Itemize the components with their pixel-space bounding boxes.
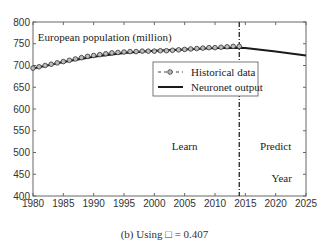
y-tick-label: 450 [13, 169, 30, 180]
legend-historical-marker [168, 70, 173, 75]
historical-data-marker [49, 62, 54, 67]
historical-data-marker [219, 45, 224, 50]
x-tick-label: 2025 [295, 198, 318, 209]
legend-historical-label: Historical data [191, 66, 256, 78]
x-tick-label: 1985 [52, 198, 75, 209]
x-tick-label: 2020 [265, 198, 288, 209]
y-tick-label: 600 [13, 104, 30, 115]
historical-data-marker [140, 49, 145, 54]
historical-data-marker [79, 55, 84, 60]
historical-data-marker [37, 65, 42, 70]
historical-data-marker [146, 49, 151, 54]
y-tick-label: 700 [13, 60, 30, 71]
x-tick-label: 2000 [143, 198, 166, 209]
historical-data-marker [182, 47, 187, 52]
y-tick-label: 400 [13, 191, 30, 202]
historical-data-marker [116, 50, 121, 55]
historical-data-marker [85, 54, 90, 59]
historical-data-marker [213, 45, 218, 50]
predict-label: Predict [260, 140, 291, 152]
line-chart: 1980198519901995200020052010201520202025… [0, 0, 329, 251]
historical-data-marker [134, 49, 139, 54]
historical-data-marker [231, 44, 236, 49]
historical-data-marker [110, 51, 115, 56]
historical-data-marker [237, 44, 242, 49]
y-tick-label: 650 [13, 82, 30, 93]
historical-data-marker [55, 61, 60, 66]
y-axis-title: European population (million) [38, 31, 172, 44]
historical-data-marker [43, 63, 48, 68]
y-tick-label: 500 [13, 147, 30, 158]
plot-frame [33, 22, 306, 196]
historical-data-marker [128, 49, 133, 54]
historical-data-marker [67, 58, 72, 63]
legend-neuronet-label: Neuronet output [191, 81, 263, 93]
x-tick-label: 1995 [113, 198, 136, 209]
historical-data-marker [176, 48, 181, 53]
learn-label: Learn [172, 140, 198, 152]
x-tick-label: 2010 [204, 198, 227, 209]
historical-data-marker [207, 45, 212, 50]
historical-data-marker [201, 46, 206, 51]
historical-data-marker [61, 59, 66, 64]
x-tick-label: 1990 [83, 198, 106, 209]
historical-data-marker [104, 51, 109, 56]
historical-data-marker [170, 48, 175, 53]
historical-data-marker [188, 47, 193, 52]
x-tick-label: 2005 [174, 198, 197, 209]
historical-data-marker [73, 57, 78, 62]
historical-data-marker [225, 44, 230, 49]
y-tick-label: 750 [13, 38, 30, 49]
historical-data-marker [91, 53, 96, 58]
historical-data-marker [195, 46, 200, 51]
historical-data-marker [97, 52, 102, 57]
historical-data-marker [122, 50, 127, 55]
historical-data-marker [164, 48, 169, 53]
y-tick-label: 800 [13, 17, 30, 28]
historical-data-marker [152, 49, 157, 54]
historical-data-marker [31, 66, 36, 71]
x-axis-title: Year [272, 172, 293, 184]
x-tick-label: 2015 [234, 198, 257, 209]
figure-caption: (b) Using □ = 0.407 [0, 228, 329, 240]
historical-data-marker [158, 48, 163, 53]
y-tick-label: 550 [13, 125, 30, 136]
